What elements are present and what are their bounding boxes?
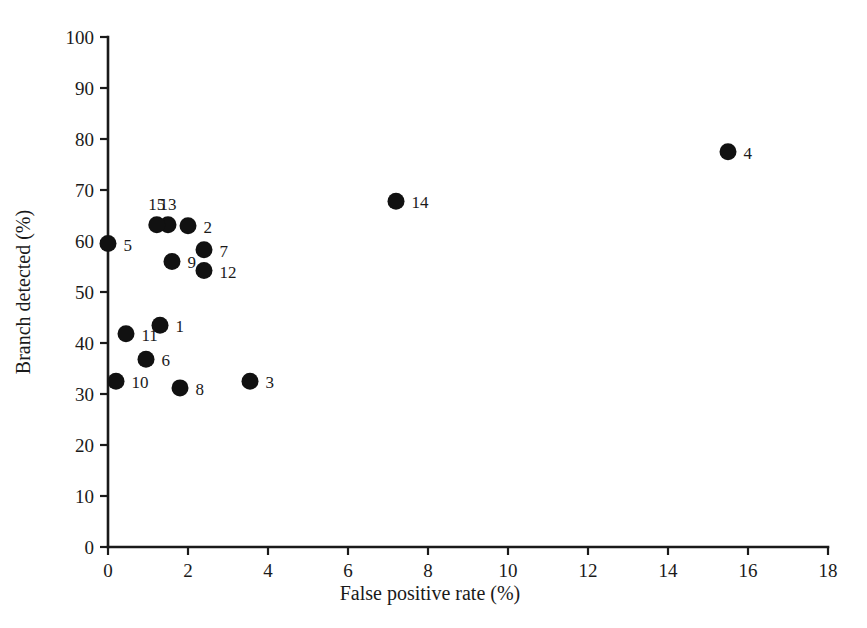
data-point-label: 4	[744, 144, 753, 163]
data-point-label: 15	[148, 195, 165, 214]
x-tick-label: 14	[659, 560, 679, 581]
y-tick-label: 90	[75, 78, 94, 99]
y-tick-label: 0	[85, 537, 95, 558]
y-tick-label: 30	[75, 384, 94, 405]
data-point	[196, 262, 213, 279]
y-tick-label: 20	[75, 435, 94, 456]
data-point	[108, 373, 125, 390]
data-point	[388, 193, 405, 210]
tick-labels-group: 0246810121416180102030405060708090100	[66, 27, 838, 581]
data-point-label: 2	[204, 218, 213, 237]
data-point-label: 6	[162, 351, 171, 370]
x-tick-label: 4	[263, 560, 273, 581]
data-point-label: 9	[188, 253, 197, 272]
data-point-label: 7	[220, 242, 229, 261]
y-tick-label: 100	[66, 27, 95, 48]
data-point	[242, 373, 259, 390]
data-point-label: 10	[132, 373, 149, 392]
scatter-plot-figure: 0246810121416180102030405060708090100 12…	[0, 0, 867, 628]
x-tick-label: 18	[819, 560, 838, 581]
data-point-label: 11	[142, 326, 158, 345]
data-point	[148, 216, 165, 233]
data-point	[172, 379, 189, 396]
data-point	[138, 351, 155, 368]
x-tick-label: 12	[579, 560, 598, 581]
data-point	[720, 143, 737, 160]
x-tick-label: 10	[499, 560, 518, 581]
data-point	[196, 241, 213, 258]
data-point-label: 12	[220, 263, 237, 282]
data-point	[100, 235, 117, 252]
x-tick-label: 8	[423, 560, 433, 581]
data-point	[118, 325, 135, 342]
data-point	[180, 217, 197, 234]
y-axis-title: Branch detected (%)	[12, 210, 35, 374]
y-tick-label: 10	[75, 486, 94, 507]
ticks-group	[100, 37, 828, 555]
y-tick-label: 80	[75, 129, 94, 150]
data-point-label: 5	[124, 236, 133, 255]
y-tick-label: 60	[75, 231, 94, 252]
x-tick-label: 6	[343, 560, 353, 581]
y-tick-label: 70	[75, 180, 94, 201]
data-point-label: 3	[266, 373, 275, 392]
y-tick-label: 50	[75, 282, 94, 303]
x-tick-label: 16	[739, 560, 758, 581]
data-point-label: 1	[176, 317, 185, 336]
data-point-label: 14	[412, 193, 430, 212]
y-tick-label: 40	[75, 333, 94, 354]
data-point-label: 8	[196, 380, 205, 399]
data-point-labels-group: 123456789101112131415	[124, 144, 753, 399]
x-tick-label: 2	[183, 560, 193, 581]
axes-group	[108, 37, 828, 547]
chart-canvas: 0246810121416180102030405060708090100 12…	[0, 0, 867, 628]
x-axis-title: False positive rate (%)	[340, 582, 521, 605]
data-point	[164, 253, 181, 270]
x-tick-label: 0	[103, 560, 113, 581]
